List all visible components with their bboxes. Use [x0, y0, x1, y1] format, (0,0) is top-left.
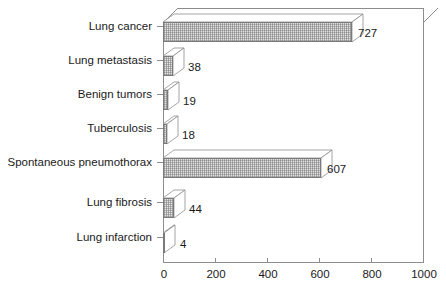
bar-group [163, 150, 332, 178]
category-label: Tuberculosis [87, 122, 152, 134]
category-label-row: Tuberculosis [0, 122, 152, 134]
x-axis-tick [371, 258, 372, 263]
x-axis-tick-label: 400 [258, 268, 277, 280]
plot-frame-right [423, 8, 424, 263]
x-axis-tick-label: 200 [206, 268, 225, 280]
bar-value-label: 44 [189, 203, 202, 215]
category-label-row: Spontaneous pneumothorax [0, 156, 152, 168]
bar-front-face [163, 233, 165, 253]
bar-chart: Lung cancer Lung metastasis Benign tumor… [0, 0, 446, 295]
bar-value-label: 727 [358, 27, 377, 39]
bar-group [163, 116, 180, 144]
bar-value-label: 607 [327, 163, 346, 175]
category-label: Lung fibrosis [87, 196, 152, 208]
bar-value-label: 38 [188, 61, 201, 73]
x-axis-tick [319, 258, 320, 263]
x-axis-tick [423, 258, 424, 263]
bar-group [163, 225, 177, 253]
x-axis-tick-label: 600 [310, 268, 329, 280]
plot-frame-top [178, 8, 424, 9]
bar-group [163, 82, 180, 110]
bar-front-face [163, 158, 321, 178]
bar-value-label: 18 [182, 129, 195, 141]
x-axis-tick-label: 1000 [411, 268, 437, 280]
category-label: Spontaneous pneumothorax [8, 156, 153, 168]
x-axis-tick-label: 800 [362, 268, 381, 280]
x-axis-line [163, 262, 424, 263]
x-axis-tick [215, 258, 216, 263]
bar-3d-faces [163, 225, 177, 253]
bar-group [163, 48, 185, 76]
bar-front-face [163, 198, 174, 218]
plot-frame-depth-edge-right [420, 4, 444, 28]
category-label-row: Lung infarction [0, 231, 152, 243]
category-label-row: Benign tumors [0, 88, 152, 100]
category-label-row: Lung metastasis [0, 54, 152, 66]
bar-front-face [163, 124, 167, 144]
category-label-row: Lung cancer [0, 20, 152, 32]
bar-value-label: 19 [183, 95, 196, 107]
category-label-row: Lung fibrosis [0, 196, 152, 208]
category-label: Lung metastasis [68, 54, 152, 66]
bar-value-label: 4 [180, 238, 186, 250]
x-axis-tick [163, 258, 164, 263]
category-label: Lung infarction [77, 231, 152, 243]
category-label: Benign tumors [78, 88, 152, 100]
bar-group [163, 14, 363, 42]
bar-front-face [163, 56, 173, 76]
x-axis-tick [267, 258, 268, 263]
category-label: Lung cancer [89, 20, 152, 32]
x-axis-tick-label: 0 [161, 268, 167, 280]
bar-group [163, 190, 186, 218]
bar-front-face [163, 22, 352, 42]
bar-front-face [163, 90, 168, 110]
